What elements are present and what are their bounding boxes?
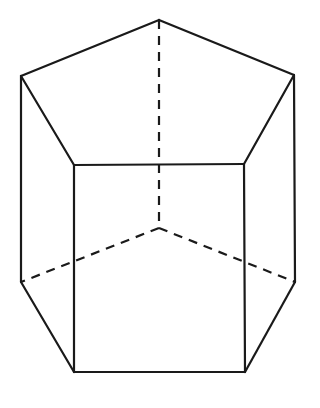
hidden-edge-bottom-back-to-bottom-right — [159, 228, 295, 282]
edge-bottom-left-to-bottom-front-left — [21, 282, 74, 372]
edge-top-right-to-top-front-right — [244, 75, 294, 164]
edge-top-back-to-top-right — [159, 20, 294, 75]
hidden-edge-bottom-back-to-bottom-left — [21, 228, 159, 282]
edge-bottom-right-to-bottom-front-right — [245, 282, 295, 372]
edge-top-back-to-top-left — [21, 20, 159, 76]
pentagonal-prism-diagram — [0, 0, 320, 408]
edge-top-front-right-to-bottom-front-right — [244, 164, 245, 372]
edge-top-right-to-bottom-right — [294, 75, 295, 282]
edge-top-left-to-top-front-left — [21, 76, 74, 165]
